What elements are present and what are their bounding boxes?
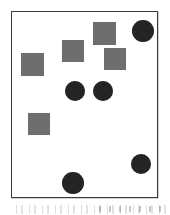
circle-shape (93, 81, 113, 101)
scan-artifact-band-secondary (96, 206, 168, 212)
square-shape (62, 40, 84, 62)
square-shape (21, 53, 44, 76)
circle-shape (131, 154, 151, 174)
circle-shape (62, 172, 84, 194)
scanned-page-surface: Scattered geometric shapes inside a rect… (0, 0, 170, 215)
square-shape (28, 113, 50, 135)
square-shape (93, 22, 116, 45)
circle-shape (65, 81, 85, 101)
shape-layer (12, 12, 157, 197)
figure-title: Scattered geometric shapes inside a rect… (0, 0, 1, 1)
circle-shape (132, 20, 154, 42)
figure-frame-border (11, 11, 158, 198)
square-shape (104, 48, 126, 70)
figure-canvas: Scattered geometric shapes inside a rect… (0, 0, 170, 215)
